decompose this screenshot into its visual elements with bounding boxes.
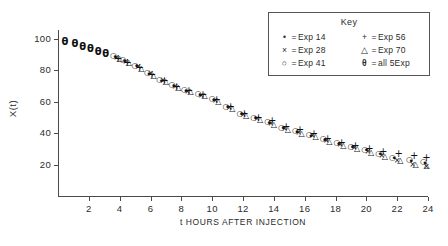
x-tick <box>274 197 275 201</box>
y-tick <box>54 133 58 134</box>
y-tick <box>54 39 58 40</box>
legend-equals-sign: = <box>370 32 378 42</box>
data-point: △ <box>423 162 429 170</box>
x-tick-label: 4 <box>105 203 135 214</box>
y-tick-label: 80 <box>18 64 51 75</box>
x-tick <box>151 197 152 201</box>
y-tick-label: 100 <box>18 33 51 44</box>
data-point: △ <box>201 92 207 100</box>
data-point: △ <box>368 149 374 157</box>
data-point: △ <box>413 161 419 169</box>
data-point: △ <box>340 142 346 150</box>
data-point: θ <box>62 37 69 47</box>
x-axis-title: t HOURS AFTER INJECTION <box>173 217 313 227</box>
x-tick-label: 10 <box>197 203 227 214</box>
legend-marker-triangle-icon: △ <box>359 45 370 55</box>
legend-entry: +=Exp 56 <box>359 32 406 42</box>
legend-label: Exp 56 <box>378 32 406 42</box>
data-point: △ <box>229 105 235 113</box>
data-point: θ <box>72 39 79 49</box>
y-tick <box>54 70 58 71</box>
x-tick-label: 18 <box>321 203 351 214</box>
legend-label: all 5Exp <box>378 58 410 68</box>
data-point: θ <box>102 49 109 59</box>
legend-marker-dot-icon: • <box>279 32 290 42</box>
legend-entry: ○=Exp 41 <box>279 58 326 68</box>
data-point: △ <box>326 138 332 146</box>
data-point: △ <box>257 116 263 124</box>
data-point: △ <box>151 72 157 80</box>
x-tick <box>89 197 90 201</box>
legend-entry: △=Exp 70 <box>359 45 406 55</box>
x-tick-label: 22 <box>382 203 412 214</box>
data-point: △ <box>271 121 277 129</box>
legend-equals-sign: = <box>290 45 298 55</box>
y-tick-label: 60 <box>18 96 51 107</box>
data-point: △ <box>285 126 291 134</box>
x-tick-label: 20 <box>351 203 381 214</box>
legend-marker-cross-icon: × <box>279 45 290 55</box>
data-point: θ <box>87 44 94 54</box>
x-tick <box>336 197 337 201</box>
data-point: △ <box>299 130 305 138</box>
x-tick-label: 16 <box>290 203 320 214</box>
legend-marker-circle-icon: ○ <box>279 58 290 68</box>
legend-equals-sign: = <box>370 58 378 68</box>
y-tick-label: 40 <box>18 127 51 138</box>
y-axis-title: X(t) <box>7 88 18 128</box>
x-tick-label: 8 <box>166 203 196 214</box>
x-tick-label: 6 <box>136 203 166 214</box>
legend-entry: •=Exp 14 <box>279 32 326 42</box>
x-tick-label: 12 <box>228 203 258 214</box>
data-point: △ <box>354 145 360 153</box>
legend-box: Key •=Exp 14×=Exp 28○=Exp 41+=Exp 56△=Ex… <box>268 12 430 76</box>
legend-marker-theta-icon: θ <box>359 58 370 68</box>
x-tick <box>397 197 398 201</box>
legend-entry: θ=all 5Exp <box>359 58 410 68</box>
data-point: θ <box>79 42 86 52</box>
x-tick <box>243 197 244 201</box>
data-point: △ <box>397 157 403 165</box>
data-point: △ <box>215 98 221 106</box>
y-tick <box>54 165 58 166</box>
legend-label: Exp 28 <box>298 45 326 55</box>
data-point: θ <box>95 47 102 57</box>
data-point: △ <box>117 55 123 63</box>
x-tick-label: 24 <box>413 203 443 214</box>
legend-equals-sign: = <box>290 32 298 42</box>
legend-label: Exp 14 <box>298 32 326 42</box>
y-axis-line <box>58 30 59 197</box>
data-point: △ <box>138 65 144 73</box>
data-point: △ <box>243 112 249 120</box>
x-tick <box>305 197 306 201</box>
legend-label: Exp 41 <box>298 58 326 68</box>
legend-equals-sign: = <box>290 58 298 68</box>
x-tick <box>181 197 182 201</box>
legend-label: Exp 70 <box>378 45 406 55</box>
data-point: △ <box>312 133 318 141</box>
x-tick <box>428 197 429 201</box>
legend-equals-sign: = <box>370 45 378 55</box>
x-tick <box>212 197 213 201</box>
data-point: △ <box>163 78 169 86</box>
legend-entry: ×=Exp 28 <box>279 45 326 55</box>
x-tick-label: 14 <box>259 203 289 214</box>
data-point: △ <box>126 59 132 67</box>
data-point: △ <box>175 84 181 92</box>
data-point: △ <box>188 88 194 96</box>
x-tick <box>120 197 121 201</box>
x-tick <box>366 197 367 201</box>
data-point: △ <box>382 153 388 161</box>
scatter-plot-figure: 20406080100 24681012141618202224 X(t) t … <box>0 0 448 246</box>
y-tick-label: 20 <box>18 159 51 170</box>
y-tick <box>54 102 58 103</box>
legend-marker-plus-icon: + <box>359 32 370 42</box>
x-tick-label: 2 <box>74 203 104 214</box>
legend-title: Key <box>269 17 429 27</box>
